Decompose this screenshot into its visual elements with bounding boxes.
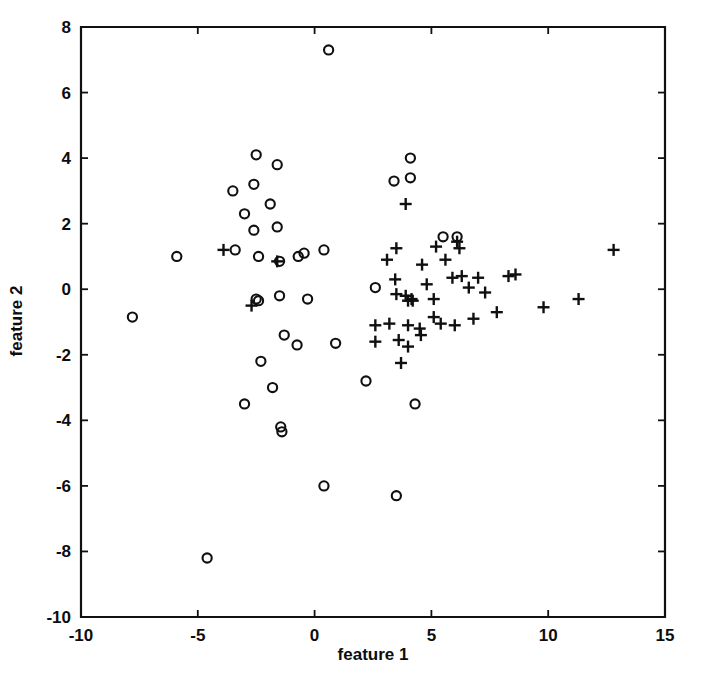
data-point-circle <box>268 383 277 392</box>
data-point-plus <box>430 241 442 253</box>
y-tick-label: 4 <box>62 149 72 168</box>
x-tick-label: -5 <box>190 626 205 645</box>
x-tick-label: 10 <box>539 626 558 645</box>
y-tick-label: 8 <box>62 18 71 37</box>
data-point-circle <box>128 312 137 321</box>
data-point-plus <box>435 318 447 330</box>
data-point-plus <box>369 319 381 331</box>
data-point-plus <box>395 357 407 369</box>
data-point-circle <box>256 357 265 366</box>
axes-frame <box>81 27 665 617</box>
data-point-plus <box>428 293 440 305</box>
data-point-circle <box>280 331 289 340</box>
y-axis-title: feature 2 <box>7 286 26 357</box>
data-point-plus <box>472 272 484 284</box>
data-point-circle <box>292 340 301 349</box>
data-point-circle <box>406 173 415 182</box>
y-tick-label: -8 <box>56 542 71 561</box>
data-point-circle <box>240 399 249 408</box>
data-point-plus <box>402 341 414 353</box>
data-point-plus <box>449 319 461 331</box>
y-tick-label: 0 <box>62 280 71 299</box>
data-point-plus <box>393 334 405 346</box>
data-point-plus <box>402 319 414 331</box>
data-point-plus <box>573 293 585 305</box>
axis-ticks <box>81 27 665 617</box>
data-point-plus <box>453 242 465 254</box>
data-point-circle <box>273 222 282 231</box>
data-point-plus <box>456 270 468 282</box>
x-tick-label: -10 <box>69 626 94 645</box>
data-point-plus <box>608 244 620 256</box>
y-tick-label: -6 <box>56 477 71 496</box>
data-point-circle <box>406 154 415 163</box>
data-point-circle <box>319 481 328 490</box>
data-point-circle <box>438 232 447 241</box>
data-point-plus <box>381 254 393 266</box>
data-point-circle <box>324 45 333 54</box>
data-point-plus <box>400 198 412 210</box>
data-point-plus <box>383 318 395 330</box>
data-point-plus <box>421 278 433 290</box>
data-point-plus <box>428 311 440 323</box>
x-tick-label: 15 <box>656 626 675 645</box>
scatter-plot-figure: -10-5051015-10-8-6-4-202468 feature 1 fe… <box>0 0 704 682</box>
data-point-plus <box>446 272 458 284</box>
data-point-plus <box>467 313 479 325</box>
data-point-plus <box>439 254 451 266</box>
data-point-plus <box>510 268 522 280</box>
data-point-plus <box>502 270 514 282</box>
y-tick-label: -2 <box>56 346 71 365</box>
data-point-plus <box>463 282 475 294</box>
data-point-circle <box>252 150 261 159</box>
data-point-circle <box>254 252 263 261</box>
data-point-plus <box>491 306 503 318</box>
x-tick-label: 5 <box>427 626 436 645</box>
data-point-circle <box>240 209 249 218</box>
y-tick-label: 2 <box>62 215 71 234</box>
data-point-circle <box>203 553 212 562</box>
y-tick-label: -10 <box>46 608 71 627</box>
data-point-circle <box>361 376 370 385</box>
data-point-circle <box>172 252 181 261</box>
data-point-circle <box>371 283 380 292</box>
data-point-plus <box>538 301 550 313</box>
data-point-circle <box>392 491 401 500</box>
y-tick-label: 6 <box>62 84 71 103</box>
data-point-plus <box>416 259 428 271</box>
data-point-plus <box>390 242 402 254</box>
data-point-circle <box>319 245 328 254</box>
data-point-plus <box>415 329 427 341</box>
data-point-circle <box>275 291 284 300</box>
data-point-circle <box>303 294 312 303</box>
data-point-circle <box>331 339 340 348</box>
axes-frame-path <box>81 27 665 617</box>
y-tick-label: -4 <box>56 411 72 430</box>
data-point-plus <box>369 336 381 348</box>
axis-tick-labels: -10-5051015-10-8-6-4-202468 <box>46 18 674 645</box>
data-point-circle <box>228 186 237 195</box>
data-point-circle <box>389 176 398 185</box>
data-point-plus <box>479 287 491 299</box>
data-point-circle <box>273 160 282 169</box>
data-point-circle <box>249 226 258 235</box>
plot-canvas: -10-5051015-10-8-6-4-202468 feature 1 fe… <box>0 0 704 682</box>
data-point-circle <box>249 180 258 189</box>
data-point-circle <box>266 199 275 208</box>
x-tick-label: 0 <box>310 626 319 645</box>
data-point-plus <box>218 244 230 256</box>
data-series-class-plus <box>218 198 620 369</box>
data-point-circle <box>410 399 419 408</box>
x-axis-title: feature 1 <box>338 645 409 664</box>
data-point-plus <box>389 273 401 285</box>
data-point-plus <box>390 288 402 300</box>
data-point-circle <box>231 245 240 254</box>
